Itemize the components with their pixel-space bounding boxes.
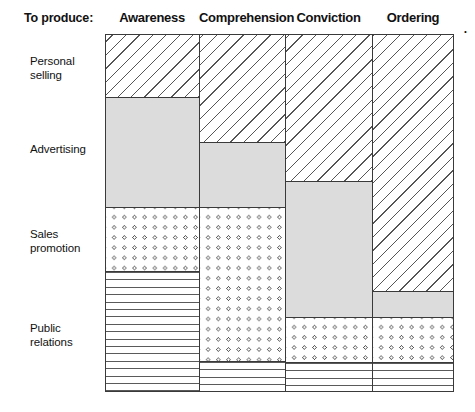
segment-awareness-sales-promotion	[106, 208, 199, 272]
row-label-personal-selling-line1: Personal	[30, 55, 102, 69]
row-label-advertising: Advertising	[30, 143, 102, 157]
column-divider-1	[199, 35, 200, 391]
segment-awareness-advertising	[106, 98, 199, 208]
segment-conviction-sales-promotion	[286, 318, 372, 363]
row-label-public-relations-line1: Public	[30, 322, 102, 336]
row-axis-title: To produce:	[24, 11, 93, 25]
segment-ordering-sales-promotion	[373, 318, 454, 363]
segment-conviction-personal-selling	[286, 35, 372, 182]
segment-comprehension-sales-promotion	[200, 208, 285, 362]
row-label-public-relations-line2: relations	[30, 336, 102, 350]
row-label-public-relations: Public relations	[30, 322, 102, 349]
chart-header-row: To produce: Awareness Comprehension Conv…	[0, 0, 475, 34]
column-header-ordering: Ordering	[372, 10, 454, 25]
segment-comprehension-personal-selling	[200, 35, 285, 143]
segment-conviction-advertising	[286, 182, 372, 318]
header-trailing-mark: .	[464, 22, 467, 36]
row-label-sales-promotion-line1: Sales	[30, 228, 102, 242]
segment-comprehension-public-relations	[200, 362, 285, 391]
segment-conviction-public-relations	[286, 363, 372, 391]
row-label-sales-promotion-line2: promotion	[30, 242, 102, 256]
segment-ordering-public-relations	[373, 363, 454, 391]
bar-column-conviction	[286, 35, 372, 391]
segment-comprehension-advertising	[200, 143, 285, 208]
column-header-awareness: Awareness	[105, 10, 199, 25]
row-label-personal-selling-line2: selling	[30, 69, 102, 83]
row-label-personal-selling: Personal selling	[30, 55, 102, 82]
row-label-advertising-line1: Advertising	[30, 143, 102, 157]
bar-column-ordering	[373, 35, 454, 391]
column-header-comprehension: Comprehension	[199, 10, 285, 25]
column-divider-2	[285, 35, 286, 391]
stacked-bar-chart-plot	[105, 34, 454, 392]
bar-column-comprehension	[200, 35, 285, 391]
bar-column-awareness	[106, 35, 199, 391]
column-divider-3	[372, 35, 373, 391]
column-header-conviction: Conviction	[285, 10, 372, 25]
segment-ordering-personal-selling	[373, 35, 454, 292]
segment-awareness-public-relations	[106, 272, 199, 391]
row-label-sales-promotion: Sales promotion	[30, 228, 102, 255]
segment-ordering-advertising	[373, 292, 454, 318]
segment-awareness-personal-selling	[106, 35, 199, 98]
